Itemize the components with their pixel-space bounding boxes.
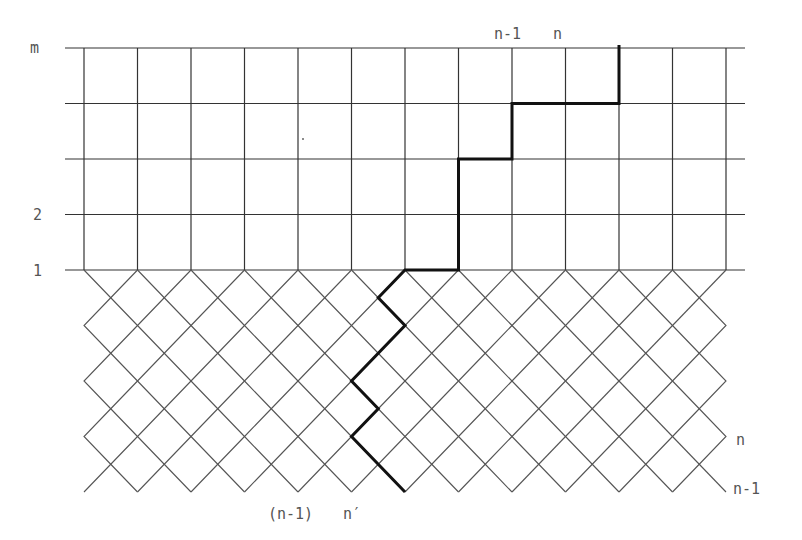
heavy-lattice-path <box>352 45 620 492</box>
row-label-1: 1 <box>33 262 42 280</box>
square-grid <box>65 48 745 270</box>
diamond-lattice <box>84 270 726 492</box>
row-label-2: 2 <box>33 206 42 224</box>
top-label-n: n <box>553 25 562 43</box>
top-label-n-minus-1: n-1 <box>494 25 521 43</box>
right-label-n: n <box>736 431 745 449</box>
bottom-label-n-prime: n′ <box>343 505 361 523</box>
right-label-n-minus-1: n-1 <box>733 480 760 498</box>
lattice-path-diagram: m 2 1 n-1 n n n-1 (n-1) n′ <box>0 0 802 540</box>
row-label-m: m <box>30 39 39 57</box>
bottom-label-n-minus-1: (n-1) <box>268 505 313 523</box>
stray-dot <box>302 138 304 140</box>
